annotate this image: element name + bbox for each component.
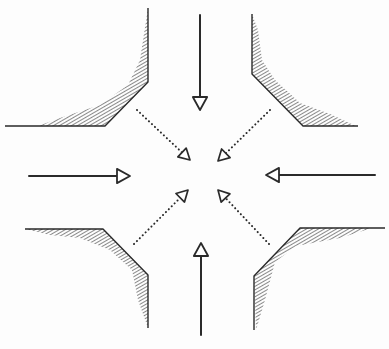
curb-southeast (254, 228, 385, 330)
arrowhead-icon (193, 97, 207, 110)
arrowhead-icon (194, 243, 208, 256)
arrowhead-icon (117, 169, 130, 183)
arrowhead-icon (266, 168, 279, 182)
dotted-arrow-from-southwest (134, 190, 188, 244)
dotted-arrow-from-southeast (218, 190, 269, 244)
dotted-arrow-from-northeast (218, 110, 270, 161)
curb-northeast (252, 14, 358, 126)
diagram-canvas (0, 0, 389, 349)
arrow-northbound (194, 243, 208, 335)
curb-southwest (25, 229, 148, 328)
dotted-arrow-from-northwest (137, 110, 190, 160)
intersection-diagram: Four-way intersection traffic flow sketc… (0, 0, 389, 349)
curb-corners (5, 8, 385, 330)
traffic-arrows (29, 15, 375, 335)
arrow-westbound (266, 168, 375, 182)
arrow-eastbound (29, 169, 130, 183)
curb-northwest (5, 8, 148, 126)
arrow-southbound (193, 15, 207, 110)
arrowhead-icon (218, 190, 230, 202)
pedestrian-diagonal-arrows (134, 110, 270, 244)
